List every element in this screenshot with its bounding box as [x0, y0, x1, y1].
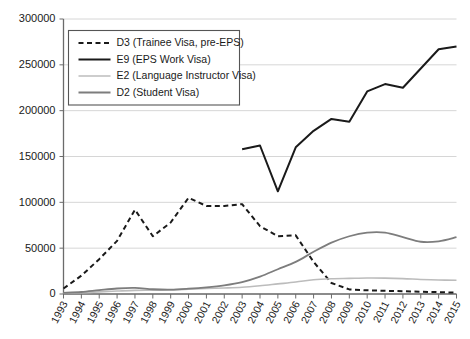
x-tick-label: 1994 [66, 299, 88, 325]
x-tick-label: 1997 [120, 299, 142, 325]
series-line-D2 [64, 232, 457, 293]
x-tick-label: 2007 [298, 299, 320, 325]
x-tick-label: 1993 [48, 299, 70, 325]
x-tick-label: 2012 [388, 299, 410, 325]
x-tick-label: 1998 [138, 299, 160, 325]
line-chart: 050000100000150000200000250000300000 199… [0, 0, 470, 339]
legend-label-D2: D2 (Student Visa) [117, 86, 200, 98]
y-tick-label: 200000 [19, 104, 56, 116]
x-tick-label: 2004 [245, 299, 267, 325]
legend-label-E9: E9 (EPS Work Visa) [117, 53, 211, 65]
x-axis-group: 1993199419951996199719981999200020012002… [48, 294, 463, 325]
y-tick-label: 0 [49, 287, 55, 299]
y-tick-label: 50000 [25, 242, 56, 254]
y-tick-label: 150000 [19, 150, 56, 162]
x-tick-label: 1995 [84, 299, 106, 325]
x-tick-label: 2008 [316, 299, 338, 325]
series-line-E9 [242, 47, 456, 192]
x-tick-label: 1996 [102, 299, 124, 325]
x-tick-label: 2009 [334, 299, 356, 325]
chart-canvas: 050000100000150000200000250000300000 199… [0, 0, 470, 339]
x-tick-label: 2006 [280, 299, 302, 325]
y-tick-label: 250000 [19, 58, 56, 70]
x-tick-label: 2013 [405, 299, 427, 325]
x-tick-label: 2001 [191, 299, 213, 325]
x-tick-label: 2002 [209, 299, 231, 325]
x-tick-label: 2015 [441, 299, 463, 325]
y-tick-label: 100000 [19, 196, 56, 208]
chart-legend: D3 (Trainee Visa, pre-EPS)E9 (EPS Work V… [69, 31, 256, 106]
x-tick-label: 2010 [352, 299, 374, 325]
x-tick-label: 2014 [423, 299, 445, 325]
y-tick-label: 300000 [19, 12, 56, 24]
x-tick-label: 2005 [263, 299, 285, 325]
y-axis-group: 050000100000150000200000250000300000 [19, 12, 64, 299]
legend-label-E2: E2 (Language Instructor Visa) [117, 69, 256, 81]
x-tick-label: 2003 [227, 299, 249, 325]
x-tick-label: 1999 [155, 299, 177, 325]
legend-label-D3: D3 (Trainee Visa, pre-EPS) [117, 36, 244, 48]
x-tick-label: 2000 [173, 299, 195, 325]
